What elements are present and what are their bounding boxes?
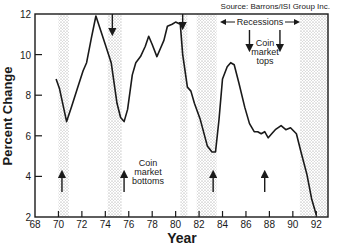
y-axis-title: Percent Change xyxy=(0,67,15,166)
x-tick-label: 92 xyxy=(311,219,323,230)
x-tick-label: 88 xyxy=(264,219,276,230)
x-axis-title: Year xyxy=(167,230,197,245)
x-tick-label: 70 xyxy=(53,219,65,230)
coin-market-bottoms-label: bottoms xyxy=(132,176,165,186)
x-tick-label: 82 xyxy=(194,219,206,230)
source-note: Source: Barrons/ISI Group Inc. xyxy=(221,2,330,11)
x-tick-label: 68 xyxy=(29,219,41,230)
y-tick-label: 8 xyxy=(25,90,31,101)
x-tick-label: 74 xyxy=(100,219,112,230)
recessions-label: Recessions xyxy=(237,17,284,27)
y-tick-label: 4 xyxy=(25,171,31,182)
x-tick-label: 86 xyxy=(240,219,252,230)
x-tick-label: 76 xyxy=(123,219,135,230)
y-tick-label: 10 xyxy=(20,50,32,61)
y-axis: 24681012 xyxy=(20,9,42,223)
x-tick-label: 72 xyxy=(76,219,88,230)
x-axis: 68707274767880828486889092 xyxy=(29,211,322,230)
y-tick-label: 12 xyxy=(20,9,32,20)
y-tick-label: 6 xyxy=(25,131,31,142)
x-tick-label: 84 xyxy=(217,219,229,230)
coin-market-tops-label: tops xyxy=(256,56,274,66)
annotations: RecessionsCoinmarkettopsCoinmarketbottom… xyxy=(62,14,297,192)
x-tick-label: 90 xyxy=(287,219,299,230)
recession-bands xyxy=(58,14,328,217)
recession-band xyxy=(300,14,328,217)
x-tick-label: 80 xyxy=(170,219,182,230)
recession-band xyxy=(58,14,69,217)
y-tick-label: 2 xyxy=(25,212,31,223)
chart: 68707274767880828486889092 24681012 Rece… xyxy=(0,0,340,245)
x-tick-label: 78 xyxy=(147,219,159,230)
